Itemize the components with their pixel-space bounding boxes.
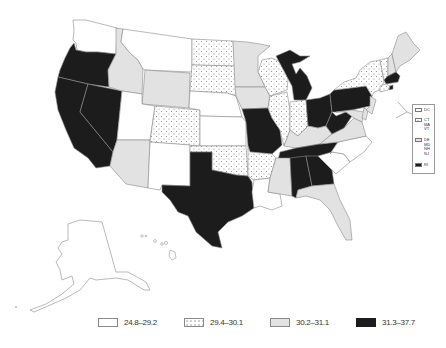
inset-row-ri: RI [415,163,432,168]
state-wa [73,20,117,54]
state-ak [30,220,150,312]
state-ct [380,84,390,92]
legend-item-range-2: 29.4–30.1 [184,318,270,327]
state-wy [142,70,190,108]
state-hi-big-island [169,250,176,260]
inset-row-dc: DC [415,108,432,113]
inset-label: DC [424,108,432,113]
inset-pointer-line [398,102,407,112]
state-hi-island [164,241,167,244]
inset-row-ct-ma-vt: CT MA VT [415,118,432,132]
legend-label: 24.8–29.2 [124,318,157,327]
state-me [392,32,420,72]
state-hi-island [145,235,147,237]
inset-label: CT MA VT [424,118,432,132]
state-hi-island [161,243,164,246]
legend-item-range-4: 31.3–37.7 [356,318,442,327]
legend-label: 30.2–31.1 [296,318,329,327]
state-co [150,106,200,146]
us-choropleth-map [0,0,446,348]
state-az [110,140,150,188]
state-nd [192,39,235,66]
state-fl [296,184,352,240]
map-legend: 24.8–29.2 29.4–30.1 30.2–31.1 31.3–37.7 [98,318,442,327]
state-hi-island [154,240,157,243]
inset-label: RI [424,163,432,168]
small-states-inset-legend: DC CT MA VT DE MD NH NJ RI [412,104,435,174]
legend-swatch-black [356,318,376,327]
state-ks [200,116,246,146]
inset-swatch-light-gray [415,138,422,142]
inset-swatch-black [415,163,422,167]
state-ia [235,87,270,109]
legend-label: 31.3–37.7 [382,318,415,327]
inset-pointer-line [396,112,407,118]
legend-item-range-1: 24.8–29.2 [98,318,184,327]
state-hi-island [141,235,143,237]
legend-swatch-dotted [184,318,204,327]
legend-swatch-white [98,318,118,327]
legend-swatch-light-gray [270,318,290,327]
state-nm [148,142,190,190]
inset-label: DE MD NH NJ [424,138,432,156]
inset-row-de-md-nh-nj: DE MD NH NJ [415,138,432,156]
inset-swatch-white [415,108,422,112]
legend-item-range-3: 30.2–31.1 [270,318,356,327]
state-ak-island [15,306,17,308]
inset-swatch-dotted [415,118,422,122]
legend-label: 29.4–30.1 [210,318,243,327]
